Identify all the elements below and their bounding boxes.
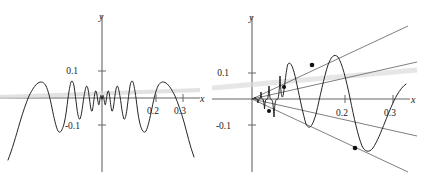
right-y-tick-label-neg-0.1: -0.1 xyxy=(216,121,231,131)
left-y-axis-label: y xyxy=(98,11,104,22)
left-x-tick-label-0.2: 0.2 xyxy=(147,106,159,116)
right-x-axis-label: x xyxy=(410,94,416,105)
left-y-tick-label-neg-0.1: -0.1 xyxy=(65,121,80,131)
right-y-axis-label: y xyxy=(248,12,254,23)
left-x-tick-label-0.3: 0.3 xyxy=(174,106,186,116)
panel-right: x y 0.2 0.3 0.1 -0.1 xyxy=(212,0,424,180)
left-labels-svg: x y 0.2 0.3 0.1 -0.1 xyxy=(0,0,212,180)
panel-left: x y 0.2 0.3 0.1 -0.1 xyxy=(0,0,212,180)
left-x-axis-label: x xyxy=(199,93,205,104)
right-y-tick-label-0.1: 0.1 xyxy=(217,68,229,78)
right-x-tick-label-0.2: 0.2 xyxy=(336,108,348,118)
figure-container: x y 0.2 0.3 0.1 -0.1 xyxy=(0,0,424,180)
right-x-tick-label-0.3: 0.3 xyxy=(384,108,396,118)
right-labels-svg: x y 0.2 0.3 0.1 -0.1 xyxy=(212,0,424,180)
left-y-tick-label-0.1: 0.1 xyxy=(66,66,78,76)
